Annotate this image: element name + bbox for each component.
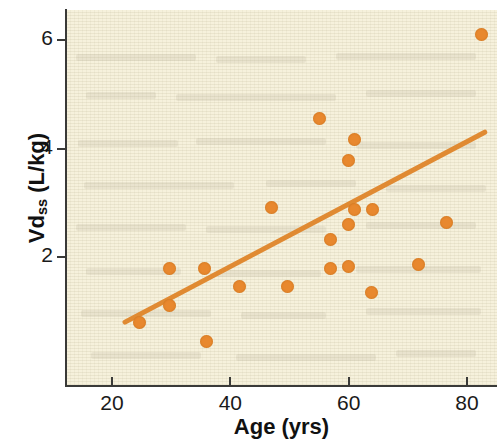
data-point xyxy=(342,260,355,273)
page-showthrough xyxy=(81,310,211,317)
y-axis-tick xyxy=(57,148,66,150)
page-showthrough xyxy=(84,182,234,189)
data-point xyxy=(348,203,361,216)
page-showthrough xyxy=(236,354,376,361)
page-showthrough xyxy=(386,185,486,192)
page-showthrough xyxy=(216,56,306,63)
page-showthrough xyxy=(206,226,326,233)
page-showthrough xyxy=(266,180,356,187)
data-point xyxy=(365,286,378,299)
page-showthrough xyxy=(396,350,476,357)
data-point xyxy=(200,335,213,348)
y-axis-title-subscript: ss xyxy=(34,199,50,215)
x-axis-title: Age (yrs) xyxy=(66,414,497,440)
data-point xyxy=(440,216,453,229)
page-showthrough xyxy=(366,222,476,229)
x-axis-tick-label: 80 xyxy=(447,391,487,415)
y-axis-tick xyxy=(57,256,66,258)
page-showthrough xyxy=(86,92,156,99)
page-showthrough xyxy=(78,140,178,147)
y-axis-title: Vdss (L/kg) xyxy=(24,88,50,288)
x-axis-line xyxy=(65,385,497,387)
y-axis-tick-label: 6 xyxy=(33,26,53,50)
x-axis-tick-label: 20 xyxy=(92,391,132,415)
data-point xyxy=(133,316,146,329)
trend-line xyxy=(66,10,497,385)
y-axis-title-main: Vd xyxy=(24,215,49,243)
page-showthrough xyxy=(366,90,476,97)
y-axis-line xyxy=(65,9,67,387)
data-point xyxy=(366,203,379,216)
scatter-plot-figure: 24620406080 Vdss (L/kg) Age (yrs) xyxy=(0,0,497,440)
page-showthrough xyxy=(216,270,321,277)
x-axis-tick xyxy=(348,377,350,386)
page-showthrough xyxy=(196,138,326,145)
x-axis-tick-label: 60 xyxy=(329,391,369,415)
page-showthrough xyxy=(241,312,326,319)
x-axis-tick xyxy=(229,377,231,386)
plot-area xyxy=(66,10,497,385)
data-point xyxy=(198,262,211,275)
page-showthrough xyxy=(176,94,336,101)
data-point xyxy=(342,154,355,167)
data-point xyxy=(313,112,326,125)
page-showthrough xyxy=(76,54,196,61)
page-showthrough xyxy=(366,308,481,315)
data-point xyxy=(324,262,337,275)
y-axis-tick xyxy=(57,39,66,41)
data-point xyxy=(265,201,278,214)
y-axis-title-unit: (L/kg) xyxy=(24,133,49,199)
data-point xyxy=(163,299,176,312)
page-showthrough xyxy=(91,352,201,359)
data-point xyxy=(163,262,176,275)
data-point xyxy=(412,258,425,271)
data-point xyxy=(233,280,246,293)
data-point xyxy=(281,280,294,293)
data-point xyxy=(475,28,488,41)
trend-line-segment xyxy=(125,132,485,322)
data-point xyxy=(348,133,361,146)
data-point xyxy=(324,233,337,246)
x-axis-tick-label: 40 xyxy=(210,391,250,415)
data-point xyxy=(342,218,355,231)
paper-texture xyxy=(66,10,497,385)
x-axis-tick xyxy=(111,377,113,386)
x-axis-tick xyxy=(466,377,468,386)
page-showthrough xyxy=(336,53,476,60)
page-showthrough xyxy=(76,224,186,231)
page-showthrough xyxy=(356,142,476,149)
